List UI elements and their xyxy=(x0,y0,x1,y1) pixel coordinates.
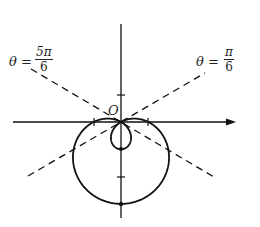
fraction-5pi-6: 5π 6 xyxy=(35,46,53,73)
diagram-canvas xyxy=(0,0,260,227)
theta-label-right: θ = xyxy=(196,55,219,68)
fraction-pi-6: π 6 xyxy=(224,46,234,73)
polar-diagram: O θ = 5π 6 θ = π 6 xyxy=(0,0,260,227)
theta-label-left: θ = xyxy=(9,55,32,68)
origin-label: O xyxy=(108,104,119,117)
fraction-numerator: π xyxy=(224,46,234,60)
fraction-denominator: 6 xyxy=(224,60,234,73)
x-axis-arrow-icon xyxy=(226,119,236,126)
fraction-numerator: 5π xyxy=(35,46,53,60)
point-inner xyxy=(119,147,123,151)
fraction-denominator: 6 xyxy=(35,60,53,73)
point-bottom xyxy=(119,202,123,206)
